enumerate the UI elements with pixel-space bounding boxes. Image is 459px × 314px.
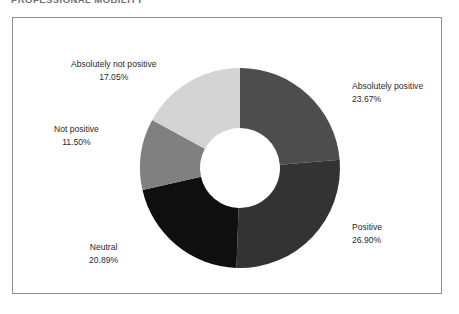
donut-slice[interactable]: [240, 68, 340, 165]
slice-label-not-positive: Not positive 11.50%: [54, 123, 99, 148]
slice-label-name: Absolutely positive: [352, 80, 423, 93]
slice-label-name: Positive: [352, 221, 382, 234]
slice-label-absolutely-positive: Absolutely positive 23.67%: [352, 80, 423, 105]
slice-label-absolutely-not-positive: Absolutely not positive 17.05%: [71, 58, 157, 83]
chart-panel: Absolutely not positive 17.05% Not posit…: [12, 17, 442, 294]
slice-label-name: Absolutely not positive: [71, 58, 157, 71]
document-heading: PROFESSIONAL MOBILITY: [11, 0, 143, 6]
slice-label-positive: Positive 26.90%: [352, 221, 382, 246]
slice-label-value: 17.05%: [71, 71, 157, 84]
donut-chart-svg: [128, 56, 352, 280]
slice-label-name: Not positive: [54, 123, 99, 136]
slice-label-value: 11.50%: [54, 136, 99, 149]
slice-label-neutral: Neutral 20.89%: [89, 241, 118, 266]
slice-label-name: Neutral: [89, 241, 118, 254]
donut-slice[interactable]: [236, 160, 340, 268]
donut-chart: [128, 56, 352, 280]
slice-label-value: 26.90%: [352, 234, 382, 247]
slice-label-value: 20.89%: [89, 254, 118, 267]
slice-label-value: 23.67%: [352, 93, 423, 106]
donut-slice[interactable]: [142, 177, 238, 268]
